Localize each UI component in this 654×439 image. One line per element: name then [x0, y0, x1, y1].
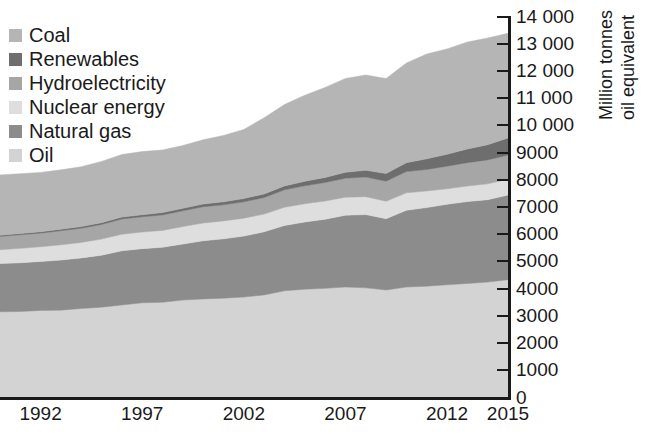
legend-label: Hydroelectricity [29, 72, 166, 94]
y-tick-3000 [497, 315, 509, 317]
y-axis-title: Million tonnes oil equivalent [596, 0, 654, 120]
legend-swatch-icon [9, 125, 22, 138]
y-tick-label-14000: 14 000 [516, 7, 574, 26]
y-tick-label-1000: 1000 [516, 360, 558, 379]
y-tick-label-5000: 5000 [516, 251, 558, 270]
y-tick-label-10000: 10 000 [516, 115, 574, 134]
y-tick-label-12000: 12 000 [516, 61, 574, 80]
y-tick-10000 [497, 124, 509, 126]
legend-label: Coal [29, 24, 70, 46]
legend-item-nuclear-energy: Nuclear energy [9, 96, 166, 118]
y-tick-14000 [497, 16, 509, 18]
legend-label: Renewables [29, 48, 139, 70]
y-tick-label-9000: 9000 [516, 143, 558, 162]
y-tick-13000 [497, 43, 509, 45]
y-tick-label-8000: 8000 [516, 170, 558, 189]
y-tick-7000 [497, 206, 509, 208]
y-tick-1000 [497, 369, 509, 371]
x-tick-label-2012: 2012 [426, 404, 468, 424]
x-tick-label-2007: 2007 [324, 404, 366, 424]
x-tick-label-2015: 2015 [487, 404, 529, 424]
y-tick-12000 [497, 70, 509, 72]
y-tick-8000 [497, 179, 509, 181]
legend-swatch-icon [9, 77, 22, 90]
y-tick-9000 [497, 152, 509, 154]
legend-swatch-icon [9, 101, 22, 114]
y-tick-label-3000: 3000 [516, 306, 558, 325]
y-tick-label-2000: 2000 [516, 333, 558, 352]
legend-label: Natural gas [29, 120, 131, 142]
legend-swatch-icon [9, 29, 22, 42]
y-axis-title-line-1: Million tonnes [596, 10, 617, 120]
legend-swatch-icon [9, 149, 22, 162]
energy-consumption-chart: 14 00013 00012 00011 00010 0009000800070… [0, 0, 654, 439]
y-axis-title-line-2: oil equivalent [618, 15, 639, 120]
legend-swatch-icon [9, 53, 22, 66]
y-tick-label-6000: 6000 [516, 224, 558, 243]
legend-item-coal: Coal [9, 24, 166, 46]
y-tick-label-11000: 11 000 [516, 88, 573, 107]
x-axis-line [0, 397, 511, 400]
y-tick-0 [497, 397, 509, 399]
legend-item-natural-gas: Natural gas [9, 120, 166, 142]
legend-label: Oil [29, 144, 53, 166]
y-tick-label-13000: 13 000 [516, 34, 574, 53]
y-tick-5000 [497, 260, 509, 262]
x-tick-label-1997: 1997 [121, 404, 163, 424]
legend-item-renewables: Renewables [9, 48, 166, 70]
y-tick-label-4000: 4000 [516, 279, 558, 298]
y-tick-11000 [497, 97, 509, 99]
chart-legend: CoalRenewablesHydroelectricityNuclear en… [9, 24, 166, 166]
y-tick-6000 [497, 233, 509, 235]
y-tick-4000 [497, 288, 509, 290]
y-tick-2000 [497, 342, 509, 344]
x-tick-label-1992: 1992 [19, 404, 61, 424]
legend-label: Nuclear energy [29, 96, 165, 118]
legend-item-oil: Oil [9, 144, 166, 166]
legend-item-hydroelectricity: Hydroelectricity [9, 72, 166, 94]
y-tick-label-7000: 7000 [516, 197, 558, 216]
x-tick-label-2002: 2002 [223, 404, 265, 424]
